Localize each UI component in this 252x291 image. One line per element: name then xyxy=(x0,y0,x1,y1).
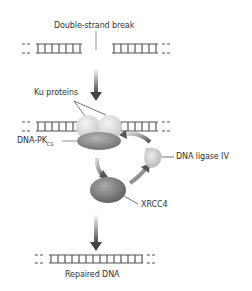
step-arrow-2 xyxy=(90,214,102,251)
label-dnapk-sub: CS xyxy=(47,141,53,147)
repaired-dna xyxy=(35,255,156,263)
cycle-arrow-back xyxy=(127,134,150,142)
label-xrcc4: XRCC4 xyxy=(141,200,167,209)
dna-fragment-left xyxy=(22,44,82,53)
cycle-arrow-up xyxy=(130,168,146,183)
label-dnapk-main: DNA-PK xyxy=(17,136,47,145)
label-dna-ligase-iv: DNA ligase IV xyxy=(176,152,229,161)
xrcc4-pointer-line xyxy=(124,196,138,204)
label-repaired-dna: Repaired DNA xyxy=(65,270,119,279)
step-arrow-1 xyxy=(90,68,102,101)
xrcc4-protein xyxy=(90,177,126,203)
label-dnapk: DNA-PKCS xyxy=(17,136,53,147)
label-ku-proteins: Ku proteins xyxy=(34,88,78,97)
dna-fragment-right xyxy=(112,44,171,53)
label-double-strand-break: Double-strand break xyxy=(54,21,134,30)
dna-middle-left xyxy=(22,122,82,131)
dnapk-protein xyxy=(77,132,121,150)
ligase-protein xyxy=(144,148,162,168)
